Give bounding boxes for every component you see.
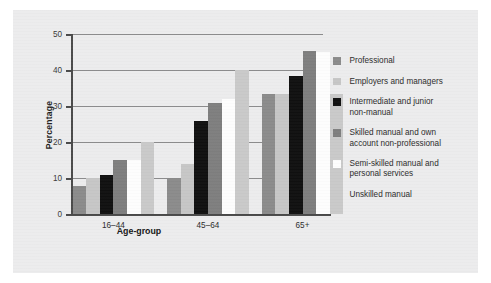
legend-item[interactable]: Intermediate and junior non-manual xyxy=(333,97,483,117)
legend-swatch-icon xyxy=(333,78,341,86)
bar xyxy=(86,178,100,214)
bar xyxy=(235,70,249,214)
legend-item[interactable]: Professional xyxy=(333,56,483,66)
legend-label: Semi-skilled manual and personal service… xyxy=(350,159,439,179)
legend-swatch-icon xyxy=(333,129,341,137)
legend-swatch-icon xyxy=(333,160,341,168)
y-tick-label: 30 xyxy=(53,102,62,111)
y-tick-label: 0 xyxy=(57,210,62,219)
legend-label: Employers and managers xyxy=(350,77,443,87)
chart-figure: Percentage 01020304050 16–4445–6465+ Age… xyxy=(13,10,478,273)
chart-legend: ProfessionalEmployers and managersInterm… xyxy=(333,56,483,211)
bar xyxy=(194,121,208,215)
legend-swatch-icon xyxy=(333,57,341,65)
legend-item[interactable]: Skilled manual and own account non-profe… xyxy=(333,128,483,148)
y-tick-label: 10 xyxy=(53,174,62,183)
x-tick-label: 65+ xyxy=(296,221,310,230)
legend-item[interactable]: Unskilled manual xyxy=(333,190,483,200)
legend-label: Skilled manual and own account non-profe… xyxy=(350,128,442,148)
bar xyxy=(141,142,155,214)
x-axis-line xyxy=(71,214,331,216)
legend-label: Professional xyxy=(350,56,395,66)
legend-swatch-icon xyxy=(333,191,341,199)
bar xyxy=(100,175,114,215)
bar xyxy=(316,52,330,214)
bar xyxy=(303,51,317,215)
y-tick-label: 50 xyxy=(53,30,62,39)
bar-groups: 16–4445–6465+ xyxy=(73,34,323,214)
bar xyxy=(289,76,303,215)
bar xyxy=(208,103,222,215)
bar xyxy=(113,160,127,214)
x-tick-label: 45–64 xyxy=(197,221,220,230)
legend-swatch-icon xyxy=(333,98,341,106)
bar xyxy=(73,186,87,215)
bar xyxy=(181,164,195,214)
bar xyxy=(275,94,289,215)
bar-group: 45–64 xyxy=(167,34,249,214)
plot-area: Percentage 01020304050 16–4445–6465+ xyxy=(71,34,323,216)
bar-group: 65+ xyxy=(262,34,344,214)
y-tick-label: 20 xyxy=(53,138,62,147)
legend-label: Intermediate and junior non-manual xyxy=(350,97,434,117)
legend-label: Unskilled manual xyxy=(350,190,412,200)
bar xyxy=(127,160,141,214)
bar xyxy=(262,94,276,215)
bar xyxy=(167,178,181,214)
legend-item[interactable]: Employers and managers xyxy=(333,77,483,87)
y-tick-label: 40 xyxy=(53,66,62,75)
legend-item[interactable]: Semi-skilled manual and personal service… xyxy=(333,159,483,179)
x-axis-title: Age-group xyxy=(117,226,161,236)
bar-group: 16–44 xyxy=(73,34,155,214)
bar xyxy=(222,99,236,214)
